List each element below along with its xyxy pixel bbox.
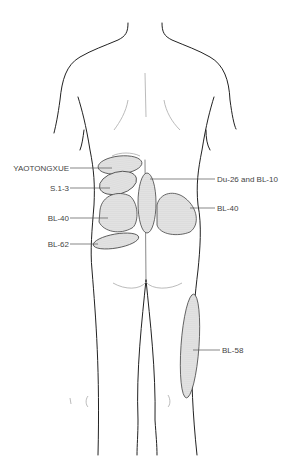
label-s1-3: S.1-3: [50, 184, 70, 193]
zone-du26-bl10: [138, 173, 156, 233]
label-bl58: BL-58: [222, 346, 244, 355]
label-bl40-left: BL-40: [48, 214, 70, 223]
label-bl62: BL-62: [48, 240, 70, 249]
label-yaotongxue: YAOTONGXUE: [13, 164, 69, 173]
zone-bl58: [177, 293, 202, 398]
zone-bl40-left: [99, 194, 137, 232]
zone-bl40-right: [157, 193, 196, 234]
acupuncture-zones: [92, 154, 202, 399]
zone-bl62: [92, 230, 140, 252]
label-du26-bl10: Du-26 and BL-10: [217, 175, 278, 184]
label-bl40-right: BL-40: [217, 204, 239, 213]
body-diagram: YAOTONGXUE S.1-3 BL-40 BL-62 Du-26 and B…: [0, 0, 288, 463]
